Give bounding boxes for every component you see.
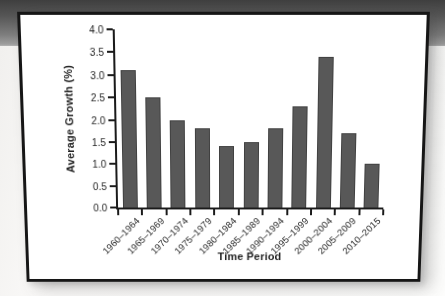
x-axis-tick: [165, 209, 167, 215]
y-tick-label: 3.5: [90, 47, 104, 58]
bar-1980–1984: [219, 146, 234, 207]
x-axis-tick: [238, 209, 240, 215]
x-axis-tick: [117, 209, 119, 215]
bar-chart: Average Growth (%) 0.00.51.01.52.02.53.0…: [20, 15, 426, 279]
y-tick-label: 3.0: [90, 69, 104, 80]
bar-2005–2009: [340, 133, 357, 207]
y-tick-label: 1.0: [92, 159, 106, 170]
y-axis-tick: [110, 185, 116, 187]
y-axis-tick: [108, 119, 114, 121]
y-axis-title: Average Growth (%): [62, 65, 77, 173]
y-tick-label: 2.0: [91, 114, 105, 125]
y-tick-label: 4.0: [89, 24, 103, 35]
y-axis-tick: [107, 51, 113, 53]
plot-area: 0.00.51.01.52.02.53.03.54.01960–19641965…: [113, 29, 389, 209]
y-tick-label: 2.5: [91, 92, 105, 103]
x-axis-title: Time Period: [117, 251, 382, 262]
y-axis-tick: [107, 28, 113, 30]
screenshot-root: Average Growth (%) 0.00.51.01.52.02.53.0…: [0, 0, 445, 296]
x-axis-tick: [189, 209, 191, 215]
bar-1990–1994: [267, 129, 283, 208]
x-axis-tick: [214, 209, 216, 215]
y-axis-tick: [110, 207, 116, 209]
y-tick-label: 0.0: [93, 202, 107, 213]
bar-1970–1974: [170, 120, 186, 208]
y-axis-tick: [108, 96, 114, 98]
bar-1985–1989: [243, 142, 258, 208]
y-tick-label: 0.5: [93, 180, 107, 191]
x-axis-tick: [286, 209, 288, 215]
x-axis-tick: [358, 209, 360, 215]
bar-1975–1979: [195, 129, 210, 208]
y-tick-label: 1.5: [92, 137, 106, 148]
x-axis-tick: [382, 209, 384, 215]
y-axis-tick: [109, 141, 115, 143]
x-axis-tick: [262, 209, 264, 215]
bar-1960–1964: [120, 70, 137, 207]
x-axis-tick: [310, 209, 312, 215]
bar-2010–2015: [364, 164, 380, 208]
y-axis-tick: [107, 74, 113, 76]
x-axis-tick: [334, 209, 336, 215]
bar-1995–1999: [292, 106, 308, 207]
y-axis-tick: [109, 163, 115, 165]
chart-card: Average Growth (%) 0.00.51.01.52.02.53.0…: [17, 12, 430, 282]
bar-1965–1969: [145, 97, 161, 207]
x-axis-tick: [141, 209, 143, 215]
bar-2000–2004: [316, 57, 334, 208]
